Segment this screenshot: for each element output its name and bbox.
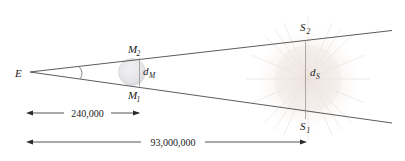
earth-sun-distance-label: 93,000,000 (151, 137, 196, 148)
label-sun-diameter-subscript: S (316, 72, 320, 81)
label-moon-diameter: d M (143, 65, 156, 80)
moon-disc (119, 59, 146, 86)
earth-moon-dimension: 240,000 (26, 108, 140, 119)
earth-sun-dimension: 93,000,000 (26, 137, 307, 148)
label-moon-diameter-subscript: M (148, 71, 156, 80)
label-sun-bottom-text: S (300, 120, 306, 132)
label-sun-top-subscript: 2 (307, 27, 311, 36)
label-sun-top-text: S (300, 21, 306, 33)
label-moon-top: M 2 (127, 43, 141, 58)
geometry-diagram: 240,000 93,000,000 E M 2 M 1 d M (0, 0, 405, 161)
diagram-canvas: 240,000 93,000,000 E M 2 M 1 d M (0, 0, 405, 161)
label-earth: E (14, 67, 22, 79)
earth-moon-distance-label: 240,000 (71, 108, 104, 119)
label-sun-bottom-subscript: 1 (307, 126, 311, 135)
label-moon-bottom: M 1 (127, 89, 140, 104)
label-moon-top-subscript: 2 (137, 49, 141, 58)
label-earth-text: E (14, 67, 22, 79)
label-moon-bottom-subscript: 1 (137, 95, 141, 104)
vertex-angle-arc (79, 67, 82, 79)
